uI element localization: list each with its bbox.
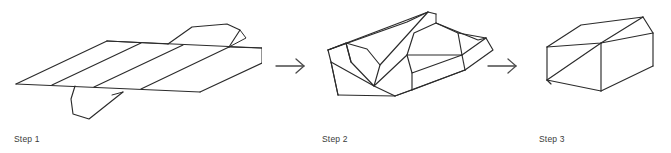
step-2-diagram — [310, 0, 500, 125]
step-3-panel: Step 3 — [525, 0, 671, 153]
arrow-right-icon — [274, 56, 308, 76]
step-1-panel: Step 1 — [0, 0, 262, 153]
step-3-diagram — [525, 0, 671, 125]
step-1-diagram — [0, 0, 262, 125]
arrow-right-icon — [486, 56, 520, 76]
diagram-canvas: Step 1 — [0, 0, 671, 153]
step-2-label: Step 2 — [322, 134, 348, 145]
step-3-label: Step 3 — [539, 134, 565, 145]
step-1-label: Step 1 — [14, 134, 40, 145]
step-2-panel: Step 2 — [310, 0, 500, 153]
